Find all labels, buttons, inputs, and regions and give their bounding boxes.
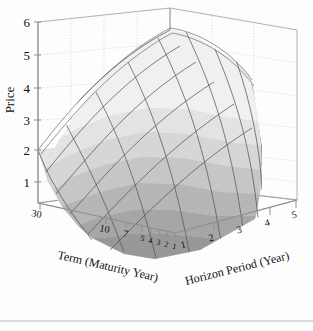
figure-container: 6 5 4 3 2 1 Price 30 10 7 5 4 3 2 1 Term… [0,0,313,331]
surface-body [38,30,262,260]
price-tick-3: 3 [24,113,31,128]
price-tick-2: 2 [24,143,31,158]
surface-plot-3d: 6 5 4 3 2 1 Price 30 10 7 5 4 3 2 1 Term… [0,0,313,331]
price-tick-1: 1 [24,175,31,190]
term-tick-30: 30 [31,207,43,220]
band-0 [92,234,250,260]
price-axis-title: Price [2,86,17,113]
price-tick-4: 4 [24,81,31,96]
horizon-axis-title: Horizon Period (Year) [184,248,291,287]
horizon-tick-5: 5 [290,209,298,221]
horizon-tick-4: 4 [263,217,271,229]
price-tick-6: 6 [24,15,31,30]
price-tick-5: 5 [24,48,31,63]
